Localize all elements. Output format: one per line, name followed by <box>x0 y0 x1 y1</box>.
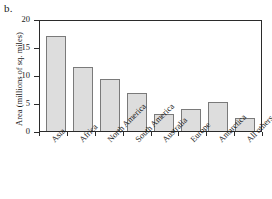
figure-panel-b: b. Area (millions of sq. miles) 05101520… <box>0 0 272 199</box>
y-tick-label: 0 <box>26 126 30 137</box>
bar-series <box>40 21 261 131</box>
plot-area <box>39 20 262 132</box>
y-tick-label: 15 <box>22 42 31 53</box>
x-tick-mark <box>39 132 40 136</box>
y-tick-label: 10 <box>22 70 31 81</box>
y-tick-label: 5 <box>26 98 30 109</box>
panel-letter-label: b. <box>4 2 13 14</box>
bar-africa <box>73 67 93 131</box>
bar-asia <box>46 36 66 131</box>
y-tick-label: 20 <box>22 14 31 25</box>
